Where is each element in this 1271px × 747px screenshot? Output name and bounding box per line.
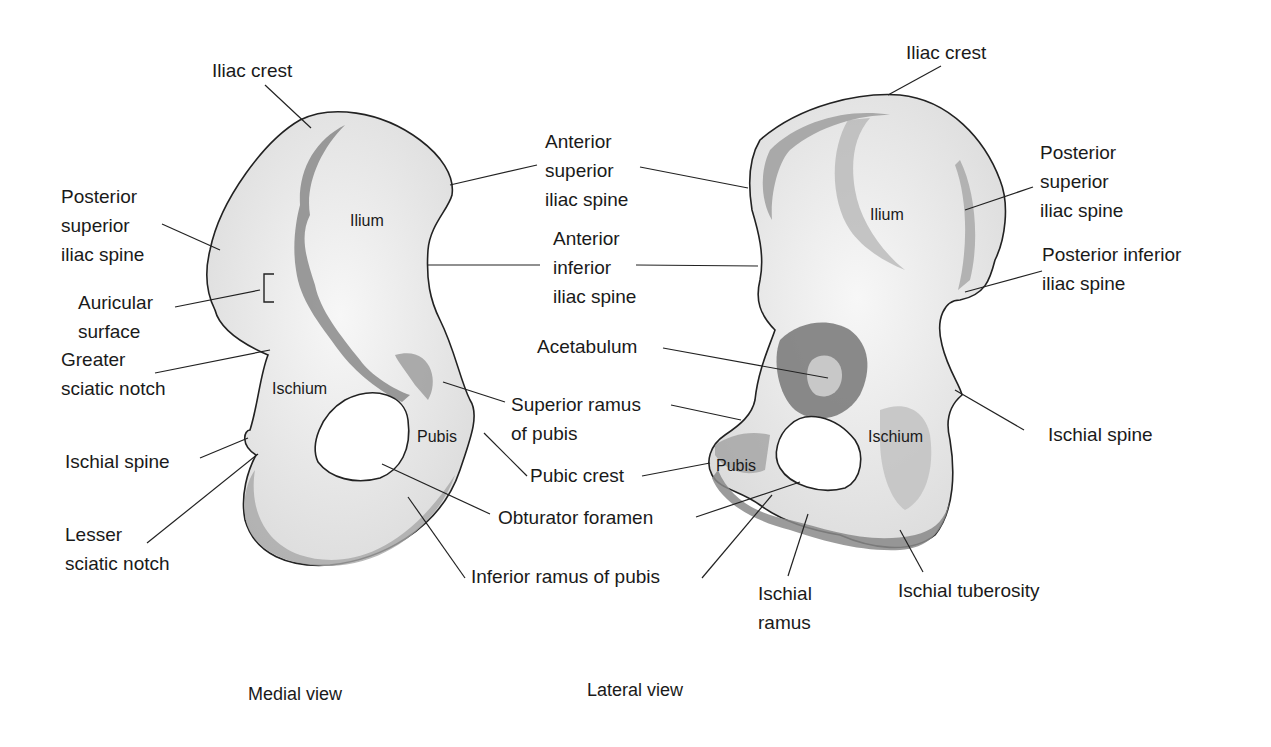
label-pubic-crest: Pubic crest <box>530 461 624 490</box>
label-auricular-surface: Auricular surface <box>78 288 153 346</box>
label-anterior-superior-iliac-spine: Anterior superior iliac spine <box>545 127 628 214</box>
label-lateral-iliac-crest: Iliac crest <box>906 38 986 67</box>
lateral-region-pubis: Pubis <box>716 457 756 475</box>
medial-hip-bone <box>207 112 474 566</box>
caption-lateral-view: Lateral view <box>587 680 683 701</box>
label-lesser-sciatic-notch: Lesser sciatic notch <box>65 520 170 578</box>
lateral-region-ilium: Ilium <box>870 206 904 224</box>
medial-region-ischium: Ischium <box>272 380 327 398</box>
label-obturator-foramen: Obturator foramen <box>498 503 653 532</box>
label-ischial-ramus: Ischial ramus <box>758 579 812 637</box>
label-anterior-inferior-iliac-spine: Anterior inferior iliac spine <box>553 224 636 311</box>
label-greater-sciatic-notch: Greater sciatic notch <box>61 345 166 403</box>
label-lateral-ischial-spine: Ischial spine <box>1048 420 1153 449</box>
label-medial-iliac-crest: Iliac crest <box>212 56 292 85</box>
label-posterior-inferior-iliac-spine: Posterior inferior iliac spine <box>1042 240 1181 298</box>
medial-region-ilium: Ilium <box>350 212 384 230</box>
lateral-region-ischium: Ischium <box>868 428 923 446</box>
label-inferior-ramus-of-pubis: Inferior ramus of pubis <box>471 562 660 591</box>
label-ischial-tuberosity: Ischial tuberosity <box>898 576 1040 605</box>
label-medial-ischial-spine: Ischial spine <box>65 447 170 476</box>
label-acetabulum: Acetabulum <box>537 332 637 361</box>
medial-region-pubis: Pubis <box>417 428 457 446</box>
label-medial-posterior-superior-iliac-spine: Posterior superior iliac spine <box>61 182 144 269</box>
label-superior-ramus-of-pubis: Superior ramus of pubis <box>511 390 641 448</box>
label-lateral-posterior-superior-iliac-spine: Posterior superior iliac spine <box>1040 138 1123 225</box>
caption-medial-view: Medial view <box>248 684 342 705</box>
lateral-hip-bone <box>709 95 1006 551</box>
hip-bone-illustration <box>0 0 1271 747</box>
